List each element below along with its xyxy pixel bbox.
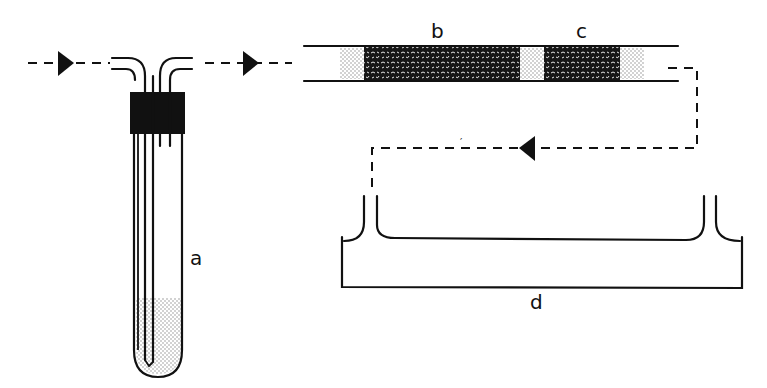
label-a: a [190, 246, 202, 270]
plug-2 [520, 48, 544, 79]
vessel-d: d [342, 196, 742, 314]
apparatus-diagram: a b c ′ d [0, 0, 767, 388]
return-flow-line: ′ [372, 68, 697, 192]
liquid-fill [136, 298, 181, 374]
plug-1 [340, 48, 364, 79]
svg-text:′: ′ [460, 137, 463, 148]
label-c: c [576, 19, 587, 43]
packing-c [544, 47, 620, 80]
packing-b [364, 47, 520, 80]
label-d: d [530, 290, 543, 314]
flow-arrow-icon [58, 51, 74, 76]
label-b: b [431, 19, 444, 43]
flow-arrow-icon [243, 51, 259, 76]
flow-arrow-icon [519, 136, 535, 161]
test-tube-a: a [112, 58, 202, 377]
plug-3 [620, 48, 644, 79]
transfer-flow-line [205, 51, 292, 76]
inlet-flow-line [28, 51, 110, 76]
absorption-tube: b c [304, 19, 678, 81]
